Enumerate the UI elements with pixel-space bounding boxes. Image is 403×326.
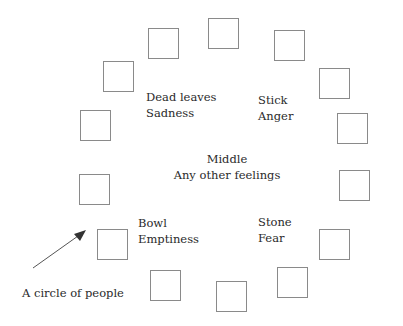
annotation-circle-of-people: A circle of people (22, 285, 124, 301)
arrow-icon (0, 0, 403, 326)
circle-diagram: Dead leaves Sadness Stick Anger Middle A… (0, 0, 403, 326)
